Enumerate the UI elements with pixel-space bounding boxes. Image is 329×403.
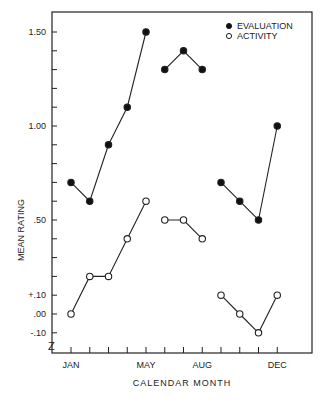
evaluation-point <box>237 198 243 204</box>
legend: EVALUATIONACTIVITY <box>226 21 292 41</box>
activity-point <box>255 330 261 336</box>
evaluation-point <box>218 179 224 185</box>
y-tick-label: .00 <box>33 309 46 319</box>
x-tick-label: AUG <box>192 360 212 370</box>
evaluation-line <box>71 32 146 201</box>
activity-point <box>180 217 186 223</box>
activity-point <box>143 198 149 204</box>
y-tick-label: 1.50 <box>28 27 46 37</box>
evaluation-point <box>87 198 93 204</box>
y-axis: 1.501.00.50+.10.00-.10 <box>28 27 57 338</box>
activity-point <box>68 311 74 317</box>
activity-point <box>237 311 243 317</box>
evaluation-point <box>143 29 149 35</box>
y-axis-label: MEAN RATING <box>16 199 26 261</box>
evaluation-point <box>162 66 168 72</box>
activity-point <box>274 292 280 298</box>
plot-frame <box>52 12 312 353</box>
y-tick-label: +.10 <box>28 290 46 300</box>
plot-series <box>68 29 281 336</box>
evaluation-point <box>124 104 130 110</box>
evaluation-point <box>255 217 261 223</box>
line-chart: 1.501.00.50+.10.00-.10 JANMAYAUGDEC MEAN… <box>0 0 329 403</box>
activity-point <box>162 217 168 223</box>
y-tick-label: -.10 <box>30 328 46 338</box>
y-tick-label: .50 <box>33 215 46 225</box>
legend-marker <box>226 23 231 28</box>
x-axis: JANMAYAUGDEC <box>62 347 287 370</box>
x-tick-label: JAN <box>62 360 79 370</box>
axis-break-symbol: Z <box>48 340 55 352</box>
evaluation-point <box>199 66 205 72</box>
activity-point <box>218 292 224 298</box>
evaluation-point <box>68 179 74 185</box>
evaluation-point <box>274 123 280 129</box>
activity-point <box>105 273 111 279</box>
legend-label: ACTIVITY <box>237 31 278 41</box>
evaluation-point <box>105 142 111 148</box>
x-tick-label: DEC <box>268 360 288 370</box>
activity-point <box>124 236 130 242</box>
evaluation-line <box>221 126 277 220</box>
activity-line <box>71 201 146 314</box>
y-tick-label: 1.00 <box>28 121 46 131</box>
activity-point <box>87 273 93 279</box>
x-axis-label: CALENDAR MONTH <box>133 378 232 388</box>
legend-label: EVALUATION <box>237 21 293 31</box>
evaluation-point <box>180 48 186 54</box>
legend-marker <box>226 33 231 38</box>
activity-line <box>221 295 277 333</box>
activity-point <box>199 236 205 242</box>
x-tick-label: MAY <box>137 360 156 370</box>
